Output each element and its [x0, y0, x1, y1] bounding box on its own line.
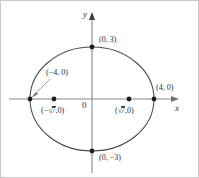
- y-axis-label: y: [83, 10, 87, 19]
- y-axis-arrowhead: [89, 12, 95, 20]
- ellipse-figure: y x 0 (0, 3) (0, −3) (4, 0) (−4, 0) (−√7…: [0, 0, 199, 178]
- right-vertex-label: (4, 0): [156, 84, 173, 92]
- right-focus-paren-close: ,0): [125, 106, 134, 115]
- point-right-vertex: [152, 97, 157, 102]
- left-focus-label: (−√7,0): [41, 106, 64, 115]
- left-vertex-label: (−4, 0): [46, 69, 68, 77]
- left-focus-paren-close: ,0): [56, 106, 65, 115]
- point-right-focus: [127, 97, 132, 102]
- bottom-vertex-label: (0, −3): [99, 154, 121, 162]
- point-left-focus: [52, 97, 57, 102]
- point-bottom-vertex: [90, 149, 95, 154]
- x-axis-label: x: [175, 104, 179, 113]
- point-left-vertex: [28, 97, 33, 102]
- right-focus-label: (√7,0): [115, 106, 134, 115]
- point-top-vertex: [90, 45, 95, 50]
- origin-label: 0: [82, 101, 87, 110]
- x-axis-arrowhead: [171, 96, 179, 102]
- top-vertex-label: (0, 3): [99, 36, 116, 44]
- left-vertex-leader-arrowhead: [31, 92, 38, 98]
